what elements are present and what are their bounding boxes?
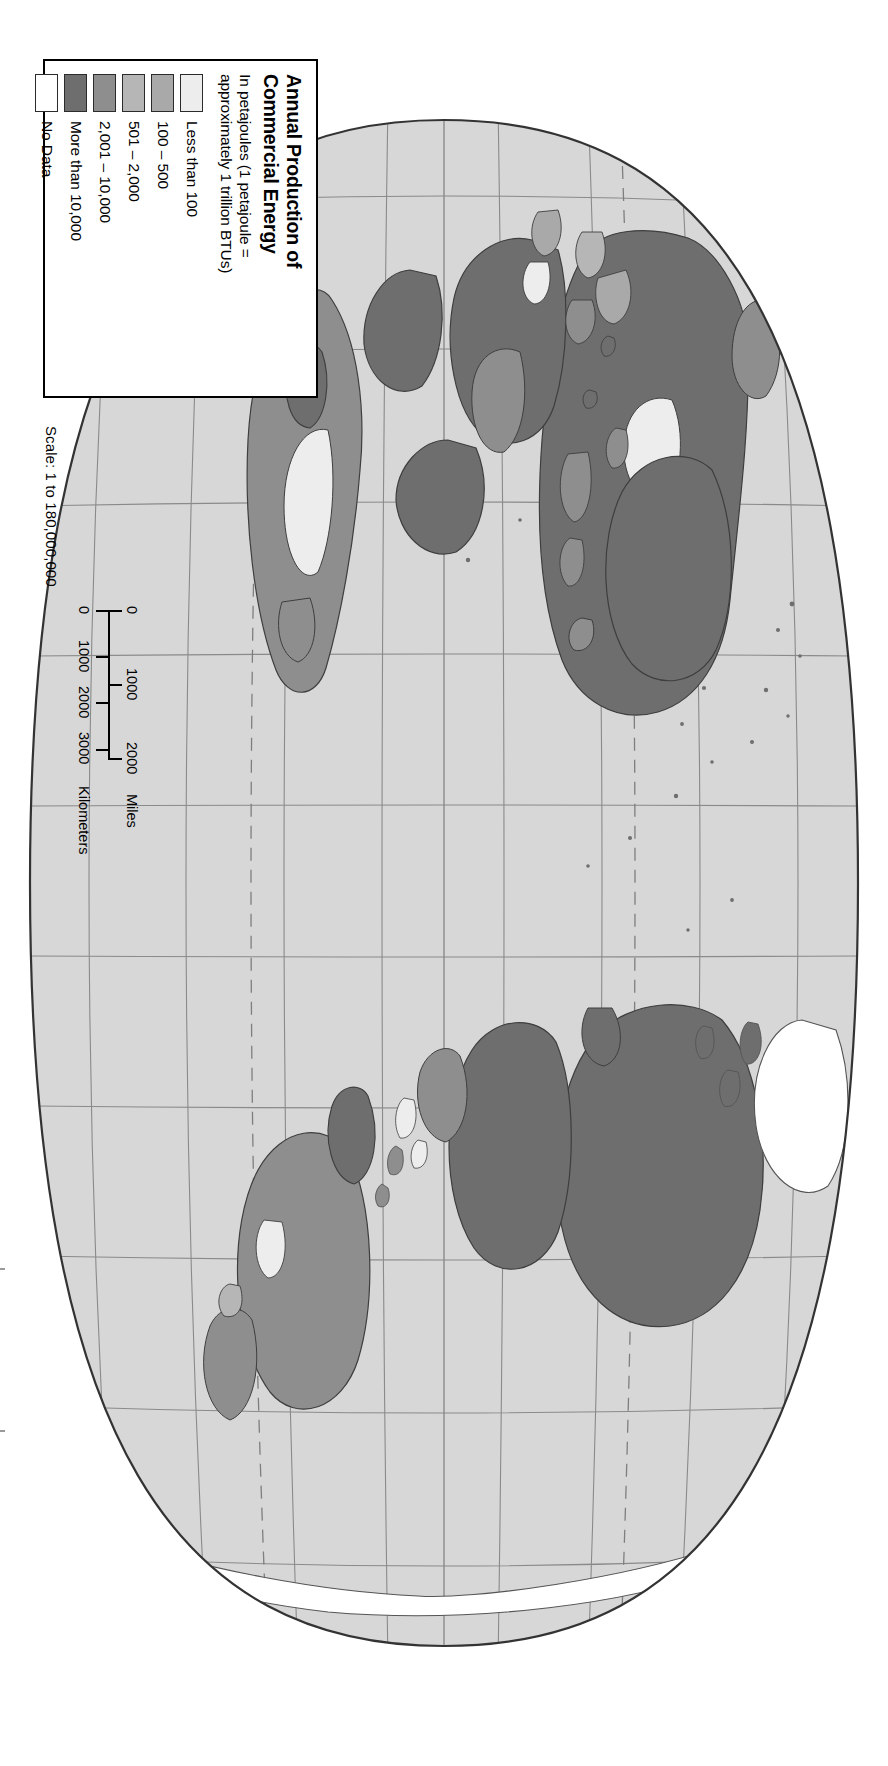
legend-swatch-icon — [93, 74, 116, 112]
legend-item[interactable]: Less than 100 — [179, 74, 205, 383]
legend-swatch-icon — [122, 74, 145, 112]
km-bar-line — [108, 610, 110, 760]
miles-tick-0 — [109, 610, 122, 612]
legend-title-line-2: Commercial Energy — [259, 74, 282, 383]
legend-item[interactable]: 100 – 500 — [150, 74, 176, 383]
scale-ratio-text: Scale: 1 to 180,000,000 — [43, 426, 60, 656]
land-chile — [219, 1284, 242, 1317]
page-edge-mark-top — [0, 1268, 5, 1270]
km-tick-2000 — [96, 702, 109, 704]
legend-swatch-icon — [64, 74, 87, 112]
km-label-2000: 2000 — [76, 686, 92, 718]
legend-swatch-icon — [35, 74, 58, 112]
legend-swatch-icon — [151, 74, 174, 112]
miles-tick-2000 — [109, 758, 122, 760]
rotated-figure-canvas: Scale: 1 to 180,000,000 0 1000 2000 Mile… — [0, 0, 888, 1766]
legend-item-label: 100 – 500 — [154, 121, 172, 189]
legend-subtitle-line-2: approximately 1 trillion BTUs) — [217, 74, 236, 383]
legend-item-label: Less than 100 — [183, 121, 201, 217]
scale-bar-graphic: 0 1000 2000 Miles 0 1000 2000 3000 Kilom… — [64, 610, 142, 800]
km-label-1000: 1000 — [76, 640, 92, 672]
legend-title: Annual Production of Commercial Energy — [259, 74, 305, 383]
km-label-3000: 3000 — [76, 732, 92, 764]
legend-subtitle-line-1: In petajoules (1 petajoule = — [235, 74, 254, 383]
legend-item[interactable]: No Data — [34, 74, 60, 383]
legend-title-line-1: Annual Production of — [282, 74, 305, 383]
land-usa — [449, 1023, 571, 1270]
miles-label-2000: 2000 — [124, 742, 140, 774]
scale-bar-block: Scale: 1 to 180,000,000 0 1000 2000 Mile… — [26, 426, 146, 786]
legend-item-label: 2,001 – 10,000 — [96, 121, 114, 223]
legend-subtitle: In petajoules (1 petajoule = approximate… — [217, 74, 254, 383]
legend-item-label: 501 – 2,000 — [125, 121, 143, 202]
legend-item-label: No Data — [38, 121, 56, 177]
legend-item[interactable]: 501 – 2,000 — [121, 74, 147, 383]
map-figure-page: Scale: 1 to 180,000,000 0 1000 2000 Mile… — [0, 0, 888, 1766]
legend-items: Less than 100 100 – 500 501 – 2,000 2,00… — [34, 74, 205, 383]
miles-unit-label: Miles — [124, 794, 140, 828]
miles-label-1000: 1000 — [124, 668, 140, 700]
page-edge-mark-bottom — [0, 1430, 5, 1432]
land-australia — [606, 456, 732, 680]
map-legend[interactable]: Annual Production of Commercial Energy I… — [43, 59, 318, 398]
legend-item[interactable]: 2,001 – 10,000 — [92, 74, 118, 383]
km-tick-1000 — [96, 656, 109, 658]
legend-item[interactable]: More than 10,000 — [63, 74, 89, 383]
km-tick-3000 — [96, 749, 109, 751]
km-label-0: 0 — [76, 606, 92, 614]
km-unit-label: Kilometers — [76, 786, 92, 855]
legend-item-label: More than 10,000 — [67, 121, 85, 241]
legend-swatch-icon — [180, 74, 203, 112]
miles-tick-1000 — [109, 684, 122, 686]
miles-label-0: 0 — [124, 606, 140, 614]
km-tick-0 — [96, 610, 109, 612]
